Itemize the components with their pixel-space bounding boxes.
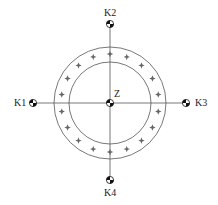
- star-icon: [75, 62, 81, 68]
- star-icon: [149, 75, 155, 81]
- diagram-canvas: [0, 0, 218, 205]
- star-icon: [64, 75, 70, 81]
- star-icon: [90, 54, 96, 60]
- label-k2: K2: [104, 8, 116, 18]
- marker-center-z-icon: [106, 99, 113, 106]
- star-icon: [59, 91, 65, 97]
- star-icon: [149, 124, 155, 130]
- star-icon: [138, 62, 144, 68]
- marker-k3-icon: [182, 99, 189, 106]
- star-icon: [124, 146, 130, 152]
- star-icon: [75, 137, 81, 143]
- marker-k1-icon: [29, 99, 36, 106]
- label-center-z: Z: [114, 89, 120, 99]
- label-k4: K4: [104, 188, 116, 198]
- label-k3: K3: [195, 98, 207, 108]
- star-icon: [107, 149, 113, 155]
- star-icon: [155, 108, 161, 114]
- star-icon: [59, 108, 65, 114]
- star-icon: [90, 146, 96, 152]
- star-icon: [107, 51, 113, 57]
- star-icon: [138, 137, 144, 143]
- star-icon: [64, 124, 70, 130]
- label-k1: K1: [14, 98, 26, 108]
- star-icon: [124, 54, 130, 60]
- marker-k4-icon: [106, 176, 113, 183]
- marker-k2-icon: [106, 20, 113, 27]
- star-icon: [155, 91, 161, 97]
